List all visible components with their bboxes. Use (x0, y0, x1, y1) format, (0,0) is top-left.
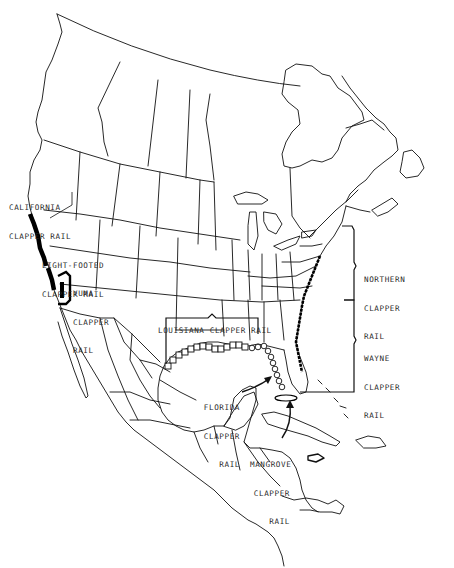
bc-alberta-border (98, 62, 120, 156)
atlantic-range (296, 256, 320, 372)
quebec-labrador-border (346, 120, 384, 130)
label-mangrove-clapper-rail: MANGROVE CLAPPER RAIL (250, 441, 290, 536)
label-florida-clapper-rail: FLORIDA CLAPPER RAIL (200, 384, 240, 479)
newfoundland (400, 150, 424, 178)
northern-bracket (342, 226, 356, 300)
northern-map-edge (57, 14, 300, 86)
lake-michigan (248, 212, 258, 250)
maritimes-border (346, 206, 370, 212)
panama (282, 496, 344, 514)
hispaniola (356, 436, 386, 448)
lake-erie (274, 236, 300, 250)
manitoba-ontario-border (206, 94, 214, 180)
nova-scotia (372, 198, 398, 216)
labrador-coast (342, 76, 398, 202)
wayne-bracket (300, 300, 356, 392)
ontario-quebec-border (290, 168, 310, 238)
florida-range (249, 343, 285, 390)
label-yuma-clapper-rail: YUMA CLAPPER RAIL (73, 270, 109, 365)
canada-us-border-west (44, 140, 214, 182)
st-lawrence (310, 190, 358, 236)
mangrove-range (275, 395, 297, 401)
bahamas (318, 380, 348, 418)
alberta-sask-border (148, 80, 158, 166)
sask-manitoba-border (186, 90, 190, 178)
lake-huron (264, 212, 282, 234)
lake-superior (234, 192, 268, 204)
lake-ontario (302, 230, 316, 238)
label-louisiana-clapper-rail: LOUISIANA CLAPPER RAIL (158, 307, 272, 345)
label-wayne-clapper-rail: WAYNE CLAPPER RAIL (364, 335, 400, 430)
louisiana-range (165, 342, 248, 369)
jamaica (308, 454, 324, 462)
mangrove-arrow (282, 404, 290, 438)
hudson-bay-coast (282, 64, 364, 168)
label-california-clapper-rail: CALIFORNIA CLAPPER RAIL (9, 184, 71, 251)
